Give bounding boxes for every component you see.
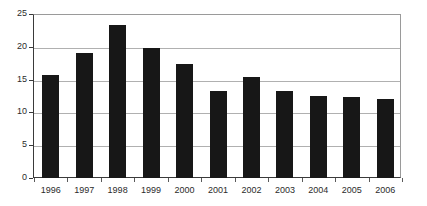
x-axis-tick-mark xyxy=(235,178,236,182)
x-axis-tick-label: 1997 xyxy=(67,186,100,195)
bar xyxy=(343,97,360,178)
bar-chart: 0510152025 19961997199819992000200120022… xyxy=(0,0,427,206)
bar xyxy=(176,64,193,178)
y-axis-tick-label: 0 xyxy=(0,173,27,182)
x-axis-tick-mark xyxy=(335,178,336,182)
bar xyxy=(276,91,293,178)
x-axis-tick-label: 1996 xyxy=(34,186,67,195)
x-axis-tick-mark xyxy=(34,178,35,182)
bar-series xyxy=(34,14,401,178)
x-axis-tick-label: 2003 xyxy=(268,186,301,195)
x-axis-tick-mark xyxy=(101,178,102,182)
x-axis-tick-mark xyxy=(302,178,303,182)
y-axis-tick-label: 20 xyxy=(0,42,27,51)
x-axis-tick-mark xyxy=(67,178,68,182)
y-axis-tick-label: 15 xyxy=(0,75,27,84)
x-axis-tick-mark xyxy=(134,178,135,182)
x-axis-tick-label: 1999 xyxy=(134,186,167,195)
x-axis-tick-mark xyxy=(402,178,403,182)
y-axis-tick-label: 25 xyxy=(0,9,27,18)
x-axis-tick-mark xyxy=(268,178,269,182)
bar xyxy=(76,53,93,178)
x-axis-tick-label: 2000 xyxy=(168,186,201,195)
x-axis-tick-label: 2002 xyxy=(235,186,268,195)
bar xyxy=(377,99,394,178)
y-axis-tick-mark xyxy=(29,178,33,179)
bar xyxy=(143,48,160,178)
bar xyxy=(109,25,126,178)
x-axis-tick-mark xyxy=(369,178,370,182)
x-axis-tick-label: 1998 xyxy=(101,186,134,195)
bar xyxy=(210,91,227,178)
y-axis-tick-label: 10 xyxy=(0,107,27,116)
x-axis-tick-label: 2005 xyxy=(335,186,368,195)
y-axis-tick-label: 5 xyxy=(0,140,27,149)
bar xyxy=(310,96,327,178)
x-axis-tick-mark xyxy=(201,178,202,182)
x-axis-tick-label: 2004 xyxy=(302,186,335,195)
x-axis-tick-label: 2006 xyxy=(369,186,402,195)
bar xyxy=(243,77,260,178)
x-axis-tick-label: 2001 xyxy=(201,186,234,195)
bar xyxy=(42,75,59,178)
x-axis-tick-mark xyxy=(168,178,169,182)
